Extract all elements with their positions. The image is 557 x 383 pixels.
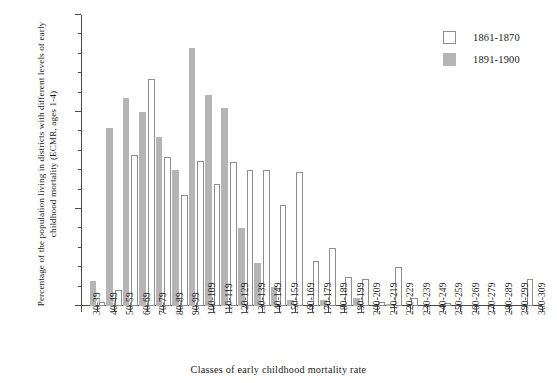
y-tick-minor xyxy=(78,266,82,267)
x-tick-label: 130-139 xyxy=(258,282,267,315)
y-tick-minor xyxy=(78,130,82,131)
bar-1861-1870 xyxy=(197,161,204,307)
y-tick-major xyxy=(75,208,81,209)
x-tick-label: 40-49 xyxy=(110,292,119,315)
x-tick-label: 30-39 xyxy=(93,292,102,315)
x-tick-label: 280-289 xyxy=(505,282,514,315)
y-tick-major xyxy=(75,14,81,15)
x-tick-label: 220-229 xyxy=(406,282,415,315)
chart-figure: Percentage of the population living in d… xyxy=(0,0,557,383)
y-tick-minor xyxy=(78,33,82,34)
legend-item: 1891-1900 xyxy=(443,48,520,70)
x-tick-label: 150-159 xyxy=(291,282,300,315)
bar-1891-1900 xyxy=(172,170,179,306)
y-tick-minor xyxy=(78,169,82,170)
x-tick-label: 80-89 xyxy=(176,292,185,315)
x-tick-label: 110-119 xyxy=(225,283,234,315)
x-tick-label: 140-149 xyxy=(274,282,283,315)
x-tick-label: 300-309 xyxy=(538,282,547,315)
x-tick-label: 210-219 xyxy=(390,282,399,315)
bar-1861-1870 xyxy=(148,79,155,306)
y-tick-minor xyxy=(78,150,82,151)
y-tick-minor xyxy=(78,92,82,93)
y-axis-line xyxy=(81,15,82,306)
y-tick-minor xyxy=(78,53,82,54)
x-tick-label: 160-169 xyxy=(307,282,316,315)
x-tick-label: 100-109 xyxy=(208,282,217,315)
x-tick-label: 50-59 xyxy=(126,292,135,315)
x-tick-label: 190-199 xyxy=(357,282,366,315)
y-tick-minor xyxy=(78,72,82,73)
x-tick-label: 60-69 xyxy=(143,292,152,315)
x-tick-label: 290-299 xyxy=(521,282,530,315)
bar-1891-1900 xyxy=(123,98,130,306)
bar-1891-1900 xyxy=(139,112,146,306)
bar-1891-1900 xyxy=(106,128,113,306)
y-tick-minor xyxy=(78,227,82,228)
y-tick-minor xyxy=(78,189,82,190)
x-tick-label: 70-79 xyxy=(159,292,168,315)
y-axis-title: Percentage of the population living in d… xyxy=(23,19,71,309)
x-tick-label: 180-189 xyxy=(340,282,349,315)
x-tick-label: 270-279 xyxy=(488,282,497,315)
bar-1861-1870 xyxy=(164,157,171,306)
chart-legend: 1861-1870 1891-1900 xyxy=(443,26,520,70)
legend-item: 1861-1870 xyxy=(443,26,520,48)
x-axis-title: Classes of early childhood mortality rat… xyxy=(0,364,557,375)
bar-1891-1900 xyxy=(205,95,212,306)
legend-label-1891-1900: 1891-1900 xyxy=(473,54,520,65)
bar-1861-1870 xyxy=(131,155,138,306)
bar-1861-1870 xyxy=(181,195,188,306)
bar-1891-1900 xyxy=(156,137,163,306)
x-tick xyxy=(81,306,82,312)
x-tick-label: 170-179 xyxy=(324,282,333,315)
x-tick-label: 90-99 xyxy=(192,292,201,315)
x-tick-label: 260-269 xyxy=(472,282,481,315)
x-tick-label: 120-129 xyxy=(241,282,250,315)
x-tick-label: 240-249 xyxy=(439,282,448,315)
legend-swatch-1861-1870 xyxy=(443,31,456,44)
x-tick-label: 250-259 xyxy=(455,282,464,315)
bar-1891-1900 xyxy=(189,48,196,306)
legend-label-1861-1870: 1861-1870 xyxy=(473,32,520,43)
bar-1891-1900 xyxy=(221,108,228,306)
x-tick-label: 230-239 xyxy=(423,282,432,315)
x-tick-label: 200-209 xyxy=(373,282,382,315)
y-tick-major xyxy=(75,111,81,112)
y-tick-minor xyxy=(78,286,82,287)
y-tick-minor xyxy=(78,247,82,248)
legend-swatch-1891-1900 xyxy=(443,53,456,66)
